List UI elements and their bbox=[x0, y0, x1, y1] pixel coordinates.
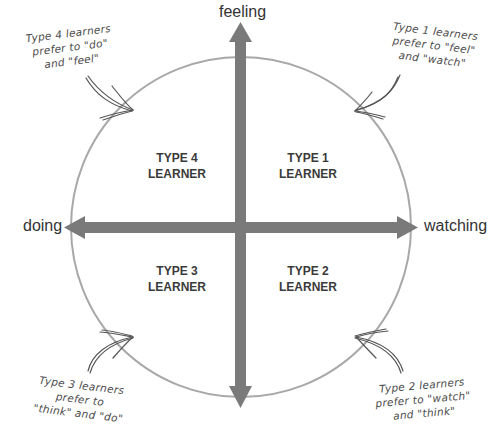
quadrant-type-2-line1: TYPE 2 bbox=[253, 263, 363, 279]
quadrant-type-3-line1: TYPE 3 bbox=[122, 263, 232, 279]
axis-label-feeling: feeling bbox=[219, 3, 266, 21]
quadrant-type-2: TYPE 2 LEARNER bbox=[253, 263, 363, 295]
sketch-arrow-top-right bbox=[355, 75, 400, 119]
quadrant-type-4-line1: TYPE 4 bbox=[122, 150, 232, 166]
quadrant-type-1-line2: LEARNER bbox=[253, 166, 363, 182]
quadrant-type-1: TYPE 1 LEARNER bbox=[253, 150, 363, 182]
quadrant-type-4: TYPE 4 LEARNER bbox=[122, 150, 232, 182]
axis-label-watching: watching bbox=[424, 217, 487, 235]
sketch-arrow-top-left bbox=[86, 76, 133, 120]
quadrant-type-3: TYPE 3 LEARNER bbox=[122, 263, 232, 295]
sketch-arrow-bottom-right bbox=[355, 329, 403, 373]
quadrant-type-1-line1: TYPE 1 bbox=[253, 150, 363, 166]
vertical-axis-arrow bbox=[229, 22, 252, 408]
quadrant-type-3-line2: LEARNER bbox=[122, 279, 232, 295]
quadrant-type-2-line2: LEARNER bbox=[253, 279, 363, 295]
quadrant-type-4-line2: LEARNER bbox=[122, 166, 232, 182]
axis-label-doing: doing bbox=[23, 217, 62, 235]
